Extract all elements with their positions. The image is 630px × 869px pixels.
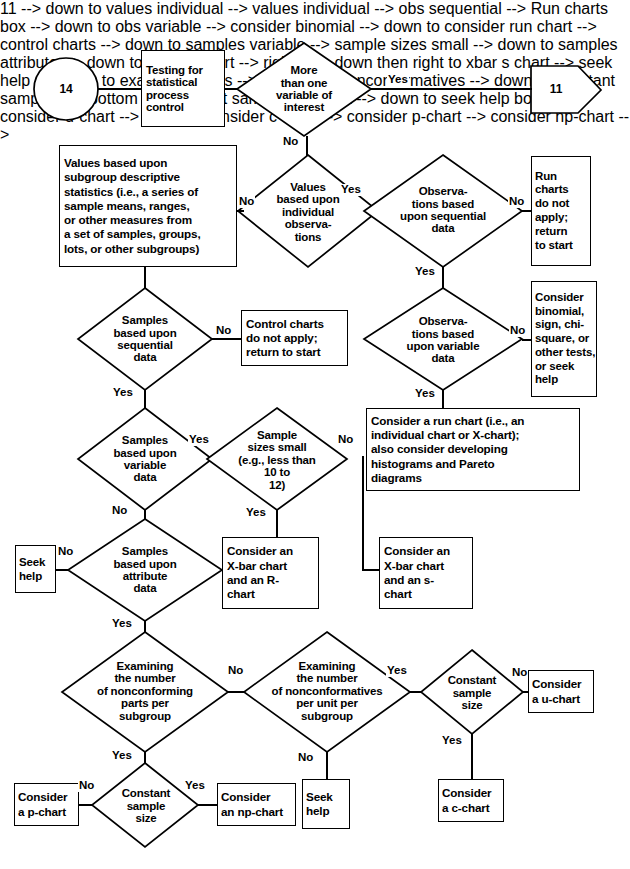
goto-11-shape: [531, 66, 601, 113]
start-circle-shape: [34, 58, 98, 120]
consider-p-chart-box[interactable]: [14, 783, 79, 826]
edge-label-subgroup-no: No: [238, 196, 255, 208]
testing-spc-box[interactable]: [141, 50, 225, 127]
edge-label-morevar-no: No: [282, 136, 299, 148]
consider-c-chart-box[interactable]: [438, 779, 504, 822]
edge-morevar-no-down: [306, 136, 308, 156]
edge-label-morevar-yes: Yes: [387, 74, 409, 86]
edge-obsvar-yes-down: [442, 390, 444, 408]
edge-label-constbottom-no: No: [78, 780, 95, 792]
edge-examnonconf-no-down: [326, 752, 328, 779]
seek-help-bottom-box[interactable]: [302, 779, 350, 829]
edge-label-examparts-no: No: [227, 665, 244, 677]
flowchart-canvas: 11 --> down to values individual --> val…: [0, 0, 630, 869]
edge-label-obsvar-yes: Yes: [414, 388, 436, 400]
edge-samplesizes-no-down: [362, 456, 364, 570]
edge-obsvar-no-to-binomial: [522, 339, 531, 341]
examining-nonconf-shape: [244, 632, 410, 752]
values-individual-shape: [238, 155, 378, 267]
samples-variable-shape: [78, 408, 212, 510]
edge-constright-yes-down: [471, 734, 473, 779]
edge-samplesizes-no-right: [362, 569, 379, 571]
edge-label-examparts-yes: Yes: [111, 750, 133, 762]
edge-obsseq-yes-down: [442, 267, 444, 288]
xbar-s-chart-box[interactable]: [379, 537, 473, 609]
consider-binomial-box[interactable]: [531, 281, 597, 397]
constant-sample-size-bottom-shape: [92, 763, 198, 847]
edge-examnonconf-yes: [410, 691, 422, 693]
values-subgroup-box[interactable]: [59, 145, 237, 267]
edge-examparts-no: [228, 691, 245, 693]
edge-label-samplesattr-yes: Yes: [111, 618, 133, 630]
edge-samplesattr-yes-down: [144, 621, 146, 633]
edge-label-examnonconf-yes: Yes: [386, 665, 408, 677]
run-charts-na-box[interactable]: [531, 156, 591, 266]
edge-label-samplesseq-yes: Yes: [112, 387, 134, 399]
edge-morevar-yes-to-11: [371, 88, 532, 90]
samples-attribute-shape: [68, 519, 222, 621]
edge-label-samplesvar-no: No: [111, 505, 128, 517]
edge-label-samplesvar-yes: Yes: [188, 434, 210, 446]
samples-sequential-shape: [78, 288, 212, 390]
obs-sequential-shape: [364, 155, 522, 267]
seek-help-left-box[interactable]: [15, 545, 56, 593]
edge-label-examnonconf-no: No: [297, 752, 314, 764]
edge-label-samplesizes-no: No: [337, 434, 354, 446]
edge-label-valuesindividual-yes: Yes: [340, 184, 362, 196]
edge-label-constright-no: No: [511, 667, 528, 679]
edge-testing-to-morevar: [224, 88, 238, 90]
edge-samplesattr-no: [55, 569, 69, 571]
edge-obsseq-no-to-runcharts: [522, 210, 531, 212]
sample-sizes-small-shape: [207, 408, 347, 510]
constant-sample-size-right-shape: [421, 650, 523, 734]
xbar-r-chart-box[interactable]: [222, 537, 319, 609]
control-charts-na-box[interactable]: [241, 310, 348, 366]
edge-examparts-yes-down: [144, 752, 146, 764]
edge-samplesseq-no: [212, 338, 241, 340]
edge-label-samplesseq-no: No: [215, 325, 232, 337]
more-than-one-var-shape: [237, 43, 371, 136]
edge-label-constright-yes: Yes: [441, 735, 463, 747]
edge-label-obsseq-yes: Yes: [414, 266, 436, 278]
edge-start-to-testing: [98, 88, 141, 90]
edge-samplesizes-yes-down: [276, 510, 278, 537]
edge-constbottom-yes: [198, 804, 217, 806]
edge-label-samplesattr-no: No: [57, 546, 74, 558]
edge-label-samplesizes-yes: Yes: [245, 507, 267, 519]
edge-constbottom-no: [78, 804, 93, 806]
edge-label-obsseq-no: No: [508, 196, 525, 208]
consider-np-chart-box[interactable]: [217, 783, 296, 826]
edge-label-obsvar-no: No: [509, 325, 526, 337]
edge-samplesvar-no-down: [144, 510, 146, 519]
edge-samplesseq-yes-down: [144, 390, 146, 408]
edge-label-constbottom-yes: Yes: [184, 780, 206, 792]
edge-subgroup-down: [144, 266, 146, 288]
obs-variable-shape: [364, 288, 522, 390]
consider-run-chart-box[interactable]: [366, 408, 580, 491]
consider-u-chart-box[interactable]: [528, 670, 594, 713]
examining-parts-shape: [62, 632, 228, 752]
